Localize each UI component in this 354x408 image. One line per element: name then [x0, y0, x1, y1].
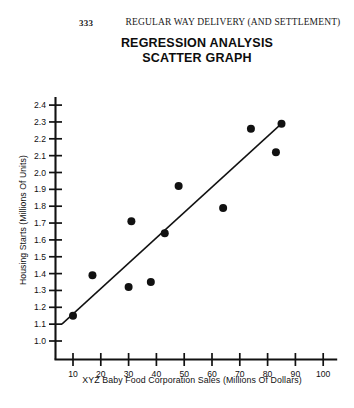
data-point: [175, 182, 183, 190]
y-tick-label: 2.4: [20, 100, 46, 110]
y-axis-title: Housing Starts (Millions Of Units): [18, 135, 28, 305]
y-tick-label: 1.0: [20, 336, 46, 346]
scatter-plot: [0, 0, 354, 408]
data-point: [247, 125, 255, 133]
data-point: [219, 204, 227, 212]
data-point: [161, 229, 169, 237]
data-point: [69, 312, 77, 320]
regression-line: [62, 124, 282, 325]
data-point: [147, 278, 155, 286]
x-axis-title: XYZ Baby Food Corporation Sales (Million…: [47, 375, 337, 385]
data-point: [278, 120, 286, 128]
data-point: [125, 283, 133, 291]
y-tick-label: 2.3: [20, 117, 46, 127]
y-tick-label: 1.1: [20, 319, 46, 329]
data-point: [88, 271, 96, 279]
data-point: [127, 217, 135, 225]
data-point: [272, 148, 280, 156]
page-canvas: 333 REGULAR WAY DELIVERY (AND SETTLEMENT…: [0, 0, 354, 408]
